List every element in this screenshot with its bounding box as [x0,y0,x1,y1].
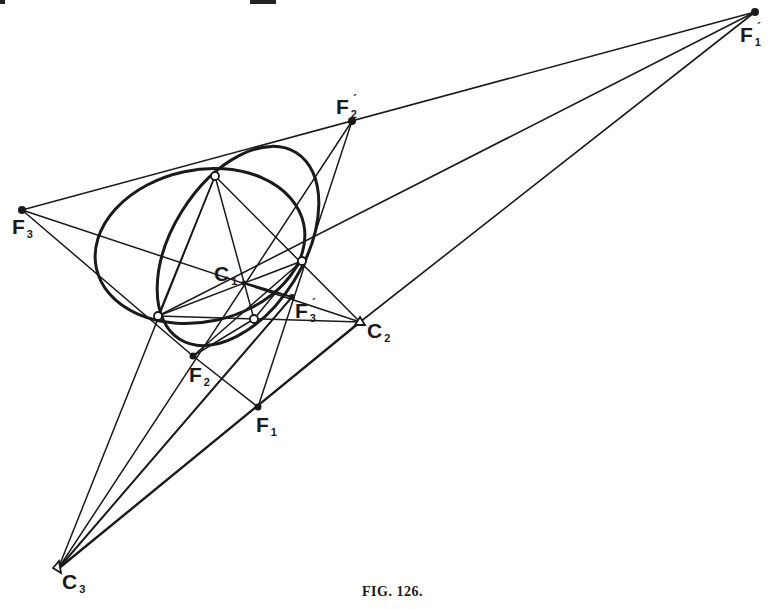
line-F1prime-C2 [360,12,755,322]
label-F1-prime: F1´ [740,22,761,48]
label-C1: C1 [214,263,237,287]
point-P-bottom [250,315,258,323]
point-P-top [211,172,219,180]
line-Ptop-Pbottom [215,176,254,319]
point-F1-prime [751,8,759,16]
label-F2-prime: F2´ [336,94,357,120]
point-P-left [154,312,162,320]
label-F3-prime: F3´ [295,298,316,324]
figure-caption: FIG. 126. [362,584,423,600]
point-F1 [255,404,262,411]
conic-tilted-ellipse [124,118,353,375]
point-P-right [298,257,306,265]
label-F3: F3 [12,216,33,240]
point-F2 [190,353,197,360]
line-F1prime-Pleft [158,12,755,316]
geometry-figure [0,0,778,609]
line-F3-F2 [22,210,193,356]
line-Ptop-Pleft [158,176,215,316]
label-C3: C3 [62,571,85,595]
line-Ptop-C2 [215,176,360,322]
label-C2: C2 [367,320,390,344]
point-F3 [18,206,26,214]
line-F3-F1prime [22,12,755,210]
point-C3-triangle [53,561,61,573]
label-F1: F1 [256,414,277,438]
point-C1 [242,281,247,286]
label-F2: F2 [189,364,210,388]
line-C3-C2 [58,322,360,569]
